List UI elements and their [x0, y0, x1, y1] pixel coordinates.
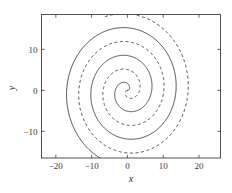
x-tick-label: 20 [195, 161, 205, 171]
y-axis-tick-labels: 100−10 [23, 45, 38, 137]
x-axis-title: x [128, 173, 134, 184]
y-axis-title: y [6, 85, 17, 91]
plot-frame [42, 15, 221, 159]
y-tick-label: −10 [23, 127, 38, 137]
x-tick-label: 0 [125, 161, 130, 171]
x-tick-label: −10 [85, 161, 100, 171]
spiral-curves-group [67, 15, 189, 158]
spiral-dashed-curve [79, 15, 189, 154]
y-tick-label: 10 [29, 45, 39, 55]
x-tick-label: 10 [159, 161, 169, 171]
x-axis-ticks [56, 15, 199, 159]
plot-canvas: −20−1001020 100−10 x y [0, 0, 232, 193]
y-axis-ticks [42, 49, 221, 131]
spiral-solid-curve [67, 28, 177, 158]
y-tick-label: 0 [33, 86, 38, 96]
x-tick-label: −20 [49, 161, 64, 171]
x-axis-tick-labels: −20−1001020 [49, 161, 204, 171]
spiral-figure: −20−1001020 100−10 x y [0, 0, 232, 193]
